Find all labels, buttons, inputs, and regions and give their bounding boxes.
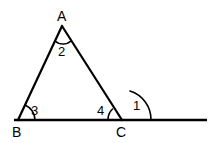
angle-label-1: 1 — [133, 99, 140, 112]
angle-label-3: 3 — [31, 104, 38, 117]
geometry-canvas — [0, 0, 217, 143]
vertex-label-b: B — [12, 125, 21, 139]
geometry-figure: A B C 1 2 3 4 — [0, 0, 217, 143]
segment-ab — [18, 26, 62, 120]
angle-label-4: 4 — [97, 104, 104, 117]
angle-arc-4 — [108, 109, 113, 120]
angle-label-2: 2 — [58, 45, 65, 58]
vertex-label-a: A — [57, 9, 66, 23]
vertex-label-c: C — [116, 125, 126, 139]
segment-ac — [62, 26, 122, 120]
